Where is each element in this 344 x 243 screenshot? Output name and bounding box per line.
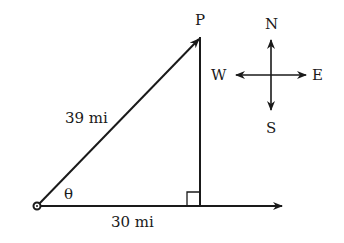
base-label: 30 mi xyxy=(111,215,154,230)
triangle-diagram: P 39 mi θ 30 mi N S W E xyxy=(0,0,344,243)
compass-east-label: E xyxy=(312,68,323,83)
hypotenuse-label: 39 mi xyxy=(65,111,108,126)
diagram-lines xyxy=(0,0,344,243)
hypotenuse-arrow xyxy=(38,39,199,205)
right-angle-marker xyxy=(187,192,200,206)
compass-north-label: N xyxy=(265,17,278,32)
compass-rose xyxy=(236,40,306,110)
compass-west-label: W xyxy=(211,68,226,83)
point-p-label: P xyxy=(195,13,205,28)
angle-theta-label: θ xyxy=(64,187,73,202)
compass-south-label: S xyxy=(266,121,276,136)
